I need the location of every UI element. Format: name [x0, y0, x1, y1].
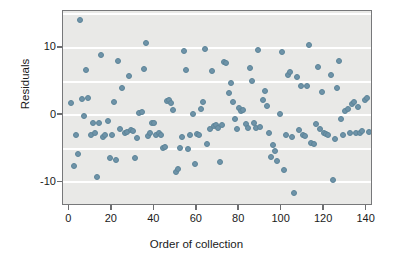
gridline-horizontal	[63, 81, 371, 83]
data-point	[264, 103, 270, 109]
gridline-horizontal	[63, 47, 371, 49]
data-point	[272, 148, 278, 154]
data-point	[366, 129, 372, 135]
data-point	[306, 42, 312, 48]
data-point	[270, 142, 276, 148]
gridline-horizontal	[63, 13, 371, 15]
data-point	[281, 167, 287, 173]
data-point	[274, 158, 280, 164]
x-tick-mark	[365, 205, 367, 210]
data-point	[143, 40, 149, 46]
data-point	[109, 132, 115, 138]
y-tick-label: 10	[44, 41, 56, 52]
x-tick-mark	[153, 205, 155, 210]
data-point	[92, 130, 98, 136]
data-point	[364, 95, 370, 101]
data-point	[336, 58, 342, 64]
data-point	[209, 68, 215, 74]
y-tick-label: -10	[40, 176, 56, 187]
gridline-horizontal	[63, 114, 371, 116]
gridline-horizontal	[63, 181, 371, 183]
data-point	[347, 130, 353, 136]
data-point	[73, 132, 79, 138]
data-point	[219, 122, 225, 128]
x-tick-mark	[322, 205, 324, 210]
data-point	[177, 145, 183, 151]
data-point	[83, 67, 89, 73]
scatter-plot-figure: 100-10 020406080100120140 Residuals Orde…	[0, 0, 393, 264]
data-point	[190, 111, 196, 117]
data-point	[223, 60, 229, 66]
data-point	[338, 116, 344, 122]
data-point	[113, 157, 119, 163]
data-point	[126, 73, 132, 79]
data-point	[255, 47, 261, 53]
data-point	[334, 85, 340, 91]
data-point	[332, 136, 338, 142]
data-point	[90, 120, 96, 126]
y-tick-mark	[57, 46, 62, 48]
data-point	[115, 58, 121, 64]
data-point	[139, 109, 145, 115]
data-point	[277, 111, 283, 117]
data-point	[192, 161, 198, 167]
data-point	[187, 132, 193, 138]
x-tick-mark	[68, 205, 70, 210]
data-point	[175, 166, 181, 172]
data-point	[232, 116, 238, 122]
data-point	[202, 46, 208, 52]
data-point	[247, 65, 253, 71]
data-point	[68, 100, 74, 106]
data-point	[198, 106, 204, 112]
data-point	[196, 132, 202, 138]
data-point	[107, 155, 113, 161]
data-point	[304, 83, 310, 89]
data-point	[268, 154, 274, 160]
data-point	[249, 78, 255, 84]
data-point	[168, 100, 174, 106]
data-point	[294, 74, 300, 80]
data-point	[240, 107, 246, 113]
data-point	[266, 130, 272, 136]
x-tick-label: 100	[261, 212, 301, 224]
data-point	[183, 67, 189, 73]
data-point	[71, 163, 77, 169]
y-tick-mark	[57, 113, 62, 115]
x-tick-label: 40	[133, 212, 173, 224]
data-point	[204, 141, 210, 147]
data-point	[119, 85, 125, 91]
x-tick-label: 20	[91, 212, 131, 224]
data-point	[340, 132, 346, 138]
data-point	[162, 144, 168, 150]
data-point	[200, 99, 206, 105]
data-point	[230, 99, 236, 105]
data-point	[298, 83, 304, 89]
data-point	[359, 128, 365, 134]
y-tick-mark	[57, 181, 62, 183]
data-point	[289, 134, 295, 140]
data-point	[151, 120, 157, 126]
x-tick-label: 0	[48, 212, 88, 224]
data-point	[311, 141, 317, 147]
data-point	[185, 146, 191, 152]
data-point	[257, 124, 263, 130]
data-point	[302, 133, 308, 139]
data-point	[132, 155, 138, 161]
x-tick-mark	[280, 205, 282, 210]
data-point	[217, 159, 223, 165]
data-point	[226, 90, 232, 96]
data-point	[94, 174, 100, 180]
x-axis-label: Order of collection	[0, 238, 393, 250]
data-point	[105, 118, 111, 124]
x-tick-label: 80	[218, 212, 258, 224]
data-point	[85, 95, 91, 101]
data-point	[325, 132, 331, 138]
data-point	[319, 89, 325, 95]
data-point	[102, 132, 108, 138]
x-tick-label: 60	[176, 212, 216, 224]
data-point	[262, 88, 268, 94]
data-point	[96, 120, 102, 126]
data-point	[245, 125, 251, 131]
data-point	[279, 49, 285, 55]
data-point	[345, 106, 351, 112]
